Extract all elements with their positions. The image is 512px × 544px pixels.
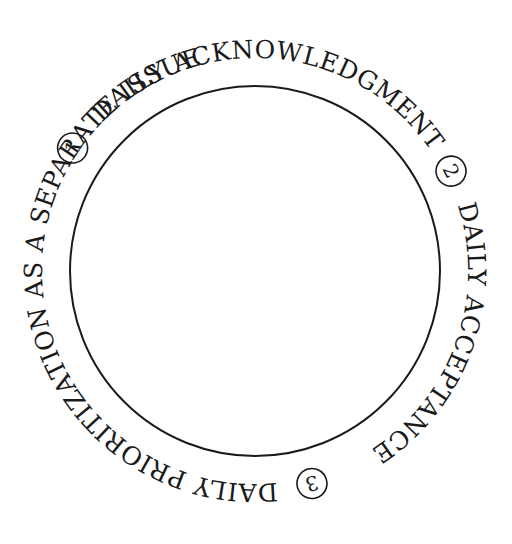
cycle-diagram: 1 2 3 DAILY ACKNOWLEDGMENT DAILY ACCEPTA… bbox=[0, 0, 512, 544]
number-marker-2: 2 bbox=[431, 151, 471, 191]
label-text-3: DAILY PRIORITIZATION AS A SEPARATE ISSUE bbox=[19, 42, 279, 507]
label-daily-prioritization: DAILY PRIORITIZATION AS A SEPARATE ISSUE bbox=[19, 42, 279, 507]
inner-circle bbox=[70, 86, 440, 456]
number-3: 3 bbox=[303, 470, 322, 496]
number-marker-3: 3 bbox=[294, 465, 331, 502]
number-2: 2 bbox=[437, 160, 464, 182]
